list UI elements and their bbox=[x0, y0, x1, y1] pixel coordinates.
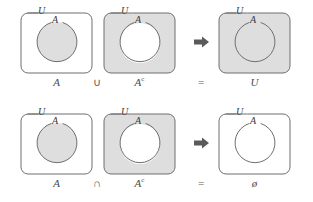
set-a-circle bbox=[235, 124, 275, 163]
caption-result-empty-set: ø bbox=[218, 177, 291, 190]
venn-diagram-set-a: U A bbox=[20, 113, 93, 175]
venn-diagram-result-empty-set: U A bbox=[218, 113, 291, 175]
set-identity-figure: U A U A U A bbox=[0, 0, 313, 202]
circle-label-a: A bbox=[135, 115, 141, 126]
arrow-right-icon bbox=[192, 34, 212, 50]
universe-label: U bbox=[121, 106, 128, 117]
venn-diagram-set-a: U A bbox=[20, 12, 93, 74]
caption-text: A bbox=[53, 177, 60, 189]
universe-label: U bbox=[38, 106, 45, 117]
universe-label: U bbox=[121, 5, 128, 16]
caption-text: A bbox=[53, 76, 60, 88]
circle-label-a: A bbox=[250, 115, 256, 126]
venn-diagram-set-a-complement: U A bbox=[103, 113, 176, 175]
union-identity-row: U A U A U A bbox=[0, 0, 313, 101]
venn-diagram-set-a-complement: U A bbox=[103, 12, 176, 74]
universe-label: U bbox=[236, 106, 243, 117]
universe-label: U bbox=[38, 5, 45, 16]
caption-superscript: c bbox=[141, 176, 144, 184]
caption-set-a: A bbox=[20, 177, 93, 190]
intersection-identity-row: U A U A U A A ∩ bbox=[0, 101, 313, 202]
caption-result-universe: U bbox=[218, 76, 291, 89]
caption-set-a-complement: Ac bbox=[103, 177, 176, 190]
caption-set-a: A bbox=[20, 76, 93, 89]
circle-label-a: A bbox=[135, 14, 141, 25]
universe-label: U bbox=[236, 5, 243, 16]
caption-text: U bbox=[251, 76, 259, 88]
circle-label-a: A bbox=[250, 14, 256, 25]
caption-set-a-complement: Ac bbox=[103, 76, 176, 89]
venn-diagram-result-universe: U A bbox=[218, 12, 291, 74]
caption-superscript: c bbox=[141, 75, 144, 83]
operator-equals: = bbox=[192, 76, 210, 89]
operator-equals: = bbox=[192, 177, 210, 190]
circle-label-a: A bbox=[52, 14, 58, 25]
circle-label-a: A bbox=[52, 115, 58, 126]
caption-text: ø bbox=[252, 177, 258, 189]
arrow-right-icon bbox=[192, 135, 212, 151]
set-a-circle bbox=[37, 23, 77, 62]
set-a-circle bbox=[37, 124, 77, 163]
